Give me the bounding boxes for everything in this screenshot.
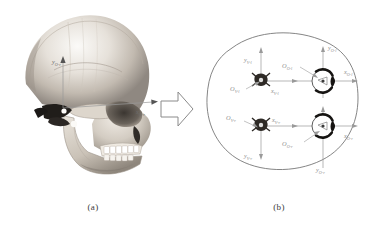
label-origin-vertebra-right: OV-r bbox=[226, 114, 236, 123]
label-origin-orbit-right: OO-r bbox=[282, 140, 293, 149]
head-top-view-diagram: OV-l xV-l yV-l bbox=[186, 0, 372, 200]
human-skull-lateral-photograph: yO-r xO-r bbox=[8, 6, 168, 196]
coordinate-system-orbit-left: OO-l xO-l yO-l bbox=[282, 44, 358, 98]
panel-a-caption: (a) bbox=[0, 202, 186, 212]
label-y-orbit-right: yO-r bbox=[315, 166, 325, 175]
label-origin-vertebra-left: OV-l bbox=[230, 85, 240, 94]
label-origin-orbit-left: OO-l bbox=[282, 62, 293, 71]
coordinate-system-orbit-right: OO-r xO-r yO-r bbox=[282, 106, 358, 175]
coordinate-system-vertebra-right: OV-r xV-r yV-r bbox=[226, 114, 298, 161]
label-x-vertebra-right: xV-r bbox=[271, 116, 281, 125]
panel-b: OV-l xV-l yV-l bbox=[186, 0, 372, 229]
label-x-orbit-left: xO-l bbox=[343, 68, 353, 77]
label-x-orbit-right: xO-r bbox=[343, 132, 353, 141]
label-y-vertebra-right: yV-r bbox=[243, 152, 253, 161]
orbit-ring-left bbox=[312, 69, 335, 92]
figure-container: yO-r xO-r (a) bbox=[0, 0, 372, 229]
cranium bbox=[26, 15, 150, 118]
head-top-view-outline bbox=[207, 33, 358, 170]
coordinate-system-vertebra-left: OV-l xV-l yV-l bbox=[230, 47, 298, 96]
label-x-vertebra-left: xV-l bbox=[270, 87, 280, 96]
label-y-vertebra-left: yV-l bbox=[243, 56, 253, 65]
panel-b-caption: (b) bbox=[186, 202, 372, 212]
